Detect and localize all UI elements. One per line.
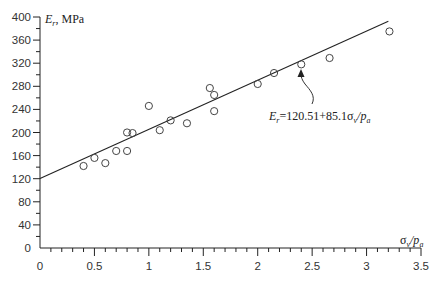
y-tick-label: 0 xyxy=(25,242,31,254)
axes xyxy=(40,17,421,248)
data-point xyxy=(156,127,163,134)
annotation-arrowhead xyxy=(298,69,305,77)
y-tick-label: 160 xyxy=(12,150,31,162)
data-point xyxy=(386,28,393,35)
x-tick-label: 3 xyxy=(363,260,369,272)
data-point xyxy=(145,102,152,109)
data-point xyxy=(298,61,305,68)
x-tick-label: 1 xyxy=(146,260,152,272)
y-tick-label: 320 xyxy=(12,57,31,69)
annotation-arrow xyxy=(301,74,313,104)
chart: 00.511.522.533.5 04080120160200240280320… xyxy=(0,0,439,288)
y-tick-label: 400 xyxy=(12,11,31,23)
data-point xyxy=(102,160,109,167)
x-tick-label: 1.5 xyxy=(195,260,211,272)
x-tick-label: 3.5 xyxy=(413,260,429,272)
data-point xyxy=(183,120,190,127)
y-tick-label: 360 xyxy=(12,34,31,46)
y-tick-label: 240 xyxy=(12,103,31,115)
y-axis-label: Er, MPa xyxy=(44,12,85,28)
y-tick-label: 120 xyxy=(12,173,31,185)
data-point xyxy=(326,54,333,61)
x-tick-label: 2 xyxy=(255,260,261,272)
y-tick-label: 280 xyxy=(12,80,31,92)
data-point xyxy=(129,129,136,136)
x-ticks: 00.511.522.533.5 xyxy=(37,248,429,272)
x-tick-label: 0 xyxy=(37,260,43,272)
data-point xyxy=(211,91,218,98)
data-point xyxy=(254,80,261,87)
x-tick-label: 0.5 xyxy=(86,260,102,272)
x-axis-label: σv/pa xyxy=(400,233,423,249)
y-tick-label: 200 xyxy=(12,127,31,139)
data-point xyxy=(91,154,98,161)
y-tick-label: 40 xyxy=(18,219,31,231)
data-point xyxy=(211,108,218,115)
fit-equation-annotation: Er=120.51+85.1σv/pa xyxy=(268,109,370,125)
x-tick-label: 2.5 xyxy=(304,260,320,272)
data-point xyxy=(123,147,130,154)
data-point xyxy=(80,162,87,169)
data-points xyxy=(80,28,393,170)
data-point xyxy=(206,84,213,91)
y-tick-label: 80 xyxy=(18,196,31,208)
data-point xyxy=(113,147,120,154)
y-ticks: 04080120160200240280320360400 xyxy=(12,11,40,254)
